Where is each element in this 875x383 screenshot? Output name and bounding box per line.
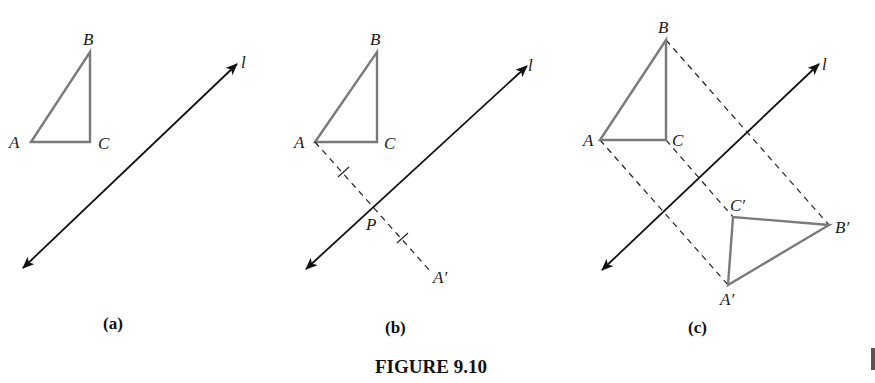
triangle-abc [600,40,666,140]
label-a-prime: A′ [432,268,447,287]
label-c: C [384,134,396,153]
label-line-l: l [528,56,533,75]
sublabel-c: (c) [688,318,707,337]
label-b: B [658,18,669,37]
label-b: B [83,30,94,49]
dashed-a-to-a-prime [600,140,728,285]
line-l [306,66,527,269]
congruence-tick-1 [338,167,349,177]
label-line-l: l [241,53,246,72]
label-p: P [365,215,376,234]
page-edge-mark [871,348,875,370]
panel-a: A B C l (a) [8,30,246,333]
figure-9-10: A B C l (a) A B C P A′ l (b) A B C C′ B′… [0,0,875,383]
label-c-prime: C′ [730,196,745,215]
triangle-a-prime-b-prime-c-prime [728,217,829,285]
label-a: A [293,133,305,152]
label-a: A [8,133,20,152]
triangle-abc [31,52,90,142]
sublabel-b: (b) [385,318,406,337]
line-l [23,64,237,268]
figure-caption: FIGURE 9.10 [375,356,487,377]
sublabel-a: (a) [103,314,123,333]
panel-b: A B C P A′ l (b) [293,30,533,337]
label-c: C [672,131,684,150]
label-a: A [582,131,594,150]
label-b-prime: B′ [835,218,849,237]
line-l [602,64,819,270]
label-a-prime: A′ [719,290,734,309]
label-c: C [98,134,110,153]
triangle-abc [315,52,377,142]
label-b: B [370,30,381,49]
label-line-l: l [822,55,827,74]
congruence-tick-2 [397,233,408,243]
panel-c: A B C C′ B′ A′ l (c) [582,18,849,337]
